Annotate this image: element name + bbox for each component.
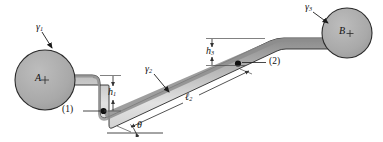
theta-label: θ [137, 120, 142, 130]
tank-b-circle [322, 8, 372, 58]
gamma1-label: γ1 [36, 22, 43, 33]
l2-extension-right [240, 69, 252, 74]
tank-b-label: B [339, 26, 345, 36]
point-1-label: (1) [62, 105, 73, 115]
l2-label: ℓ2 [185, 92, 192, 103]
l2-subscript: 2 [189, 95, 192, 102]
figure-canvas: A B γ1 γ2 γ3 h1 h3 ℓ2 θ (1) (2) [0, 0, 383, 142]
h3-subscript: 3 [211, 49, 214, 56]
pipe-assembly [45, 38, 330, 128]
tank-a-label: A [35, 73, 41, 83]
gamma3-subscript: 3 [309, 5, 312, 12]
gamma3-leader-arrow [313, 12, 328, 23]
point-2-label: (2) [269, 57, 280, 67]
gamma2-subscript: 2 [149, 67, 152, 74]
gamma2-label: γ2 [145, 64, 152, 75]
l2-extension-left [117, 126, 131, 132]
gamma3-label: γ3 [305, 2, 312, 13]
h3-label: h3 [206, 46, 214, 57]
diagram-svg [0, 0, 383, 142]
h1-subscript: 1 [113, 90, 116, 97]
gamma1-leader-arrow [42, 32, 52, 48]
h1-label: h1 [108, 87, 116, 98]
gamma1-subscript: 1 [40, 25, 43, 32]
